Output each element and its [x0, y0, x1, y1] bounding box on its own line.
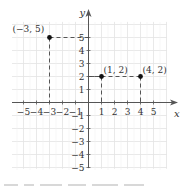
- y-tick-label: −4: [71, 150, 85, 160]
- x-tick-label: 4: [138, 107, 144, 117]
- y-tick-label: 2: [79, 72, 85, 82]
- x-tick-label: −4: [30, 107, 44, 117]
- x-axis-label: x: [174, 108, 180, 119]
- x-tick-label: −5: [17, 107, 31, 117]
- y-tick-label: −2: [71, 124, 84, 134]
- point-label: (−3, 5): [13, 24, 45, 34]
- y-tick-label: 4: [79, 46, 85, 56]
- coordinate-plane: −5−4−3−2−11234554321−1−2−3−4−5(−3, 5)(1,…: [0, 0, 188, 192]
- y-tick-label: −1: [71, 111, 84, 121]
- data-point: [138, 74, 143, 79]
- y-axis-label: y: [79, 7, 86, 18]
- y-tick-label: −3: [71, 137, 85, 147]
- x-tick-label: −3: [43, 107, 57, 117]
- y-tick-label: −5: [71, 163, 85, 173]
- y-tick-label: 3: [79, 59, 85, 69]
- figure-caption-placeholder: [4, 184, 174, 186]
- point-label: (1, 2): [104, 65, 128, 75]
- x-tick-label: 1: [99, 107, 105, 117]
- data-point: [47, 35, 52, 40]
- y-tick-label: 5: [79, 33, 85, 43]
- point-label: (4, 2): [143, 65, 167, 75]
- y-tick-label: 1: [79, 85, 85, 95]
- grid-lines: [12, 22, 167, 170]
- tick-labels: −5−4−3−2−11234554321−1−2−3−4−5(−3, 5)(1,…: [13, 24, 167, 173]
- x-tick-label: 5: [151, 107, 157, 117]
- data-point: [99, 74, 104, 79]
- x-tick-label: 3: [125, 107, 131, 117]
- x-tick-label: 2: [112, 107, 118, 117]
- x-tick-label: −2: [56, 107, 69, 117]
